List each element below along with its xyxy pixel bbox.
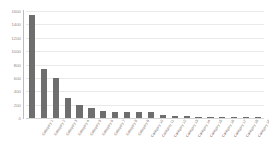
bar-slot bbox=[160, 11, 166, 118]
bar[interactable] bbox=[231, 117, 237, 118]
bar-slot bbox=[65, 11, 71, 118]
bar[interactable] bbox=[172, 116, 178, 118]
bar-slot bbox=[124, 11, 130, 118]
y-tick-label: 400 bbox=[14, 89, 21, 94]
bar-slot bbox=[243, 11, 249, 118]
bar-slot bbox=[219, 11, 225, 118]
x-tick-label: Category 9 bbox=[137, 119, 150, 136]
bar[interactable] bbox=[76, 105, 82, 118]
y-tick-label: 1600 bbox=[11, 9, 21, 14]
bar[interactable] bbox=[195, 117, 201, 118]
bar[interactable] bbox=[207, 117, 213, 118]
y-axis-line bbox=[23, 10, 24, 119]
y-tick-label: 1200 bbox=[11, 35, 21, 40]
bar-slot bbox=[172, 11, 178, 118]
bar[interactable] bbox=[243, 117, 249, 118]
y-tick-label: 1400 bbox=[11, 22, 21, 27]
bar[interactable] bbox=[88, 108, 94, 118]
y-tick-label: 600 bbox=[14, 75, 21, 80]
bar-slot bbox=[41, 11, 47, 118]
y-axis: 16001400120010008006004002000 bbox=[0, 11, 24, 118]
bar[interactable] bbox=[29, 15, 35, 118]
bar-slot bbox=[100, 11, 106, 118]
bar-slot bbox=[148, 11, 154, 118]
x-tick-label: Category 8 bbox=[125, 119, 138, 136]
bar[interactable] bbox=[41, 69, 47, 118]
bar[interactable] bbox=[65, 98, 71, 118]
bar[interactable] bbox=[255, 117, 261, 118]
bar-slot bbox=[112, 11, 118, 118]
bar[interactable] bbox=[100, 111, 106, 118]
bar[interactable] bbox=[184, 116, 190, 118]
plot-area bbox=[26, 11, 264, 118]
bar[interactable] bbox=[112, 112, 118, 118]
x-axis-labels: Category 1Category 2Category 3Category 4… bbox=[26, 119, 264, 162]
bar[interactable] bbox=[219, 117, 225, 118]
bar-series bbox=[26, 11, 264, 118]
bar[interactable] bbox=[124, 112, 130, 118]
bar-slot bbox=[184, 11, 190, 118]
y-tick-label: 200 bbox=[14, 102, 21, 107]
bar-slot bbox=[231, 11, 237, 118]
bar[interactable] bbox=[53, 78, 59, 118]
bar[interactable] bbox=[160, 115, 166, 118]
y-tick-label: 800 bbox=[14, 62, 21, 67]
y-tick-label: 1000 bbox=[11, 49, 21, 54]
bar-slot bbox=[136, 11, 142, 118]
bar-slot bbox=[255, 11, 261, 118]
y-tick-label: 0 bbox=[19, 116, 21, 121]
bar-slot bbox=[29, 11, 35, 118]
bar-slot bbox=[207, 11, 213, 118]
bar-slot bbox=[195, 11, 201, 118]
bar-slot bbox=[76, 11, 82, 118]
bar[interactable] bbox=[136, 112, 142, 118]
bar-chart: 16001400120010008006004002000 Category 1… bbox=[0, 0, 269, 162]
bar-slot bbox=[53, 11, 59, 118]
bar-slot bbox=[88, 11, 94, 118]
bar[interactable] bbox=[148, 112, 154, 118]
